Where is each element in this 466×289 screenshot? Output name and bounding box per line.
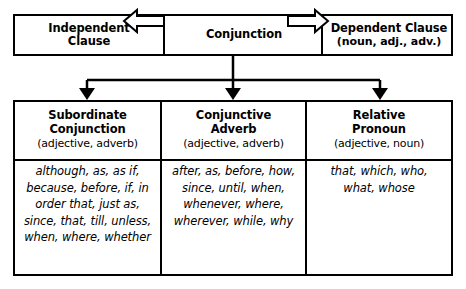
dependent-clause-line2: (noun, adj., adv.) [331,35,448,49]
dependent-clause-cell: Dependent Clause (noun, adj., adv.) [327,16,451,54]
independent-clause-line2: Clause [68,34,110,48]
column-title-line2: Adverb [211,122,257,136]
dependent-clause-line1: Dependent Clause [331,21,448,35]
column-title-line2: Pronoun [352,122,406,136]
column-title-conjunctive: Conjunctive Adverb [162,108,305,136]
column-title-relative: Relative Pronoun [307,108,451,136]
conjunction-types-table: Subordinate Conjunction (adjective, adve… [13,100,453,276]
column-header-rule [15,159,160,161]
conjunction-label: Conjunction [206,28,282,42]
table-column-subordinate-conjunction: Subordinate Conjunction (adjective, adve… [15,102,162,274]
column-title-line1: Relative [353,108,405,122]
column-title-line2: Conjunction [49,122,125,136]
table-column-relative-pronoun: Relative Pronoun (adjective, noun) that,… [307,102,451,274]
tree-connector [0,54,466,102]
column-words-relative: that, which, who, what, whose [307,163,451,196]
dependent-clause-label: Dependent Clause (noun, adj., adv.) [331,22,448,49]
clause-relationship-box: Independent Clause Conjunction Dependent… [13,14,453,56]
independent-clause-line1: Independent [48,21,129,35]
column-header-subordinate: Subordinate Conjunction (adjective, adve… [15,102,160,151]
arrow-left-icon [122,7,166,35]
diagram-canvas: Independent Clause Conjunction Dependent… [0,0,466,289]
column-words-conjunctive: after, as, before, how, since, until, wh… [162,163,305,229]
column-subtitle-subordinate: (adjective, adverb) [15,136,160,151]
column-header-relative: Relative Pronoun (adjective, noun) [307,102,451,151]
column-title-subordinate: Subordinate Conjunction [15,108,160,136]
independent-clause-label: Independent Clause [48,22,129,49]
table-column-conjunctive-adverb: Conjunctive Adverb (adjective, adverb) a… [162,102,307,274]
column-title-line1: Conjunctive [196,108,271,122]
column-subtitle-conjunctive: (adjective, adverb) [162,136,305,151]
column-title-line1: Subordinate [48,108,127,122]
arrow-right-icon [286,7,330,35]
column-header-conjunctive: Conjunctive Adverb (adjective, adverb) [162,102,305,151]
column-subtitle-relative: (adjective, noun) [307,136,451,151]
column-header-rule [307,159,451,161]
column-words-subordinate: although, as, as if, because, before, if… [15,163,160,246]
column-header-rule [162,159,305,161]
